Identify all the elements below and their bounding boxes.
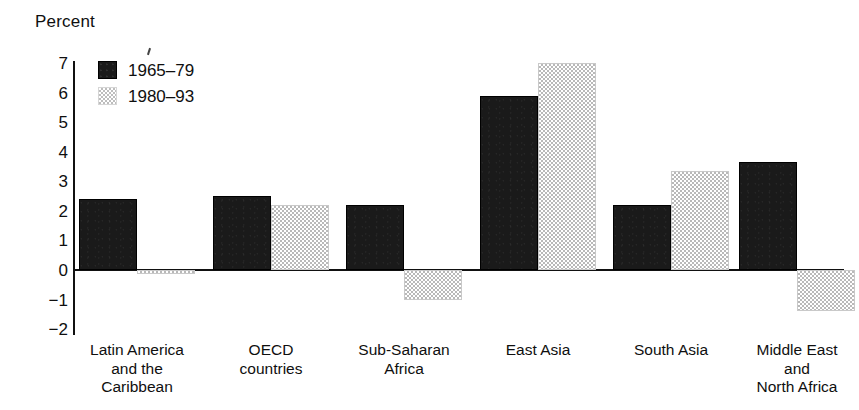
y-tick-label: 2 [36, 202, 68, 219]
bar-series1-cat0 [79, 199, 137, 270]
bar-series2-cat0 [137, 270, 195, 274]
y-tick-label: 4 [36, 143, 68, 160]
category-label-5: Middle EastandNorth Africa [707, 341, 859, 397]
bar-series1-cat4 [613, 205, 671, 270]
light-swatch-icon [98, 87, 117, 105]
y-tick-label: 7 [36, 55, 68, 72]
bar-series2-cat2 [404, 270, 462, 300]
y-tick-label: −2 [36, 321, 68, 338]
category-label-line: and [707, 360, 859, 379]
bar-series1-cat2 [346, 205, 404, 270]
bar-series1-cat1 [213, 196, 271, 270]
y-tick-label: −1 [36, 291, 68, 308]
bar-series2-cat5 [797, 270, 855, 311]
bar-series1-cat3 [480, 96, 538, 270]
legend-item-1: 1980–93 [98, 84, 194, 108]
bar-series2-cat1 [271, 205, 329, 270]
y-tick-label: 3 [36, 173, 68, 190]
bar-series2-cat4 [671, 171, 729, 270]
stray-mark-icon [147, 48, 151, 55]
y-tick-label: 1 [36, 232, 68, 249]
dark-swatch-icon [98, 61, 117, 79]
category-label-line: North Africa [707, 378, 859, 397]
bar-series2-cat3 [538, 63, 596, 270]
y-axis-line [73, 61, 75, 335]
y-tick-label: 5 [36, 114, 68, 131]
legend-label: 1980–93 [128, 88, 194, 105]
bar-series1-cat5 [739, 162, 797, 270]
category-label-line: Caribbean [47, 378, 227, 397]
legend-item-0: 1965–79 [98, 58, 194, 82]
legend: 1965–791980–93 [98, 58, 194, 110]
y-tick-label: 6 [36, 84, 68, 101]
category-label-line: Middle East [707, 341, 859, 360]
legend-label: 1965–79 [128, 62, 194, 79]
y-axis-title: Percent [35, 12, 95, 32]
y-tick-label: 0 [36, 262, 68, 279]
category-label-line: Africa [314, 360, 494, 379]
